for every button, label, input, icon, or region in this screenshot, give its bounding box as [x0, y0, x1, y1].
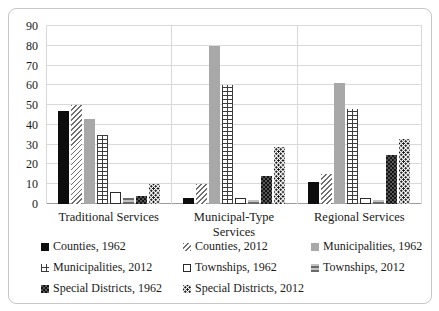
bar	[399, 139, 410, 204]
bar	[248, 200, 259, 204]
bar	[235, 198, 246, 204]
legend-item: Municipalities, 1962	[311, 239, 439, 254]
bar-group-3	[297, 26, 422, 204]
y-tick-label: 90	[8, 18, 38, 34]
bar	[274, 147, 285, 204]
y-tick-label: 30	[8, 137, 38, 153]
x-category-label: Regional Services	[297, 210, 422, 240]
legend-label: Special Districts, 2012	[195, 281, 304, 296]
bar	[110, 192, 121, 204]
y-tick-label: 80	[8, 38, 38, 54]
legend-swatch-icon	[41, 264, 49, 272]
bar	[136, 196, 147, 204]
bar	[334, 83, 345, 204]
y-tick-label: 20	[8, 156, 38, 172]
bar	[360, 198, 371, 204]
chart-image: 0102030405060708090 Traditional Services…	[0, 0, 439, 311]
bar-group-2	[171, 26, 296, 204]
bar	[209, 46, 220, 204]
legend-swatch-icon	[311, 264, 319, 272]
y-axis: 0102030405060708090	[9, 26, 41, 204]
bar	[321, 174, 332, 204]
bar	[196, 184, 207, 204]
legend-item: Townships, 1962	[183, 260, 311, 275]
legend-label: Counties, 1962	[53, 239, 126, 254]
bar	[84, 119, 95, 204]
bar	[149, 184, 160, 204]
legend-swatch-icon	[183, 243, 191, 251]
legend-label: Townships, 2012	[323, 260, 405, 275]
bar-groups	[46, 26, 422, 204]
chart-figure: 0102030405060708090 Traditional Services…	[8, 8, 432, 304]
bar	[373, 200, 384, 204]
bar	[71, 105, 82, 204]
plot-area	[46, 26, 422, 204]
y-tick-label: 70	[8, 58, 38, 74]
legend-label: Municipalities, 2012	[53, 260, 152, 275]
legend-item: Townships, 2012	[311, 260, 439, 275]
bar	[308, 182, 319, 204]
legend-label: Counties, 2012	[195, 239, 268, 254]
bar	[123, 198, 134, 204]
x-category-label: Municipal-Type Services	[171, 210, 296, 240]
y-tick-label: 50	[8, 97, 38, 113]
bar	[386, 155, 397, 204]
bar	[183, 198, 194, 204]
y-tick-label: 40	[8, 117, 38, 133]
legend-item: Special Districts, 2012	[183, 281, 311, 296]
bar	[261, 176, 272, 204]
legend: Counties, 1962Counties, 2012Municipaliti…	[41, 239, 439, 296]
legend-item: Special Districts, 1962	[41, 281, 183, 296]
bar	[347, 109, 358, 204]
bar	[222, 85, 233, 204]
bar	[97, 135, 108, 204]
legend-swatch-icon	[183, 264, 191, 272]
legend-item: Municipalities, 2012	[41, 260, 183, 275]
legend-swatch-icon	[41, 243, 49, 251]
x-category-label: Traditional Services	[46, 210, 171, 240]
legend-label: Townships, 1962	[195, 260, 277, 275]
legend-label: Special Districts, 1962	[53, 281, 162, 296]
legend-swatch-icon	[41, 285, 49, 293]
legend-item: Counties, 2012	[183, 239, 311, 254]
bar-group-1	[46, 26, 171, 204]
y-tick-label: 10	[8, 176, 38, 192]
bar	[58, 111, 69, 204]
legend-swatch-icon	[183, 285, 191, 293]
y-tick-label: 0	[8, 196, 38, 212]
legend-swatch-icon	[311, 243, 319, 251]
x-axis-labels: Traditional ServicesMunicipal-Type Servi…	[46, 210, 422, 240]
legend-label: Municipalities, 1962	[323, 239, 422, 254]
y-tick-label: 60	[8, 77, 38, 93]
legend-item: Counties, 1962	[41, 239, 183, 254]
